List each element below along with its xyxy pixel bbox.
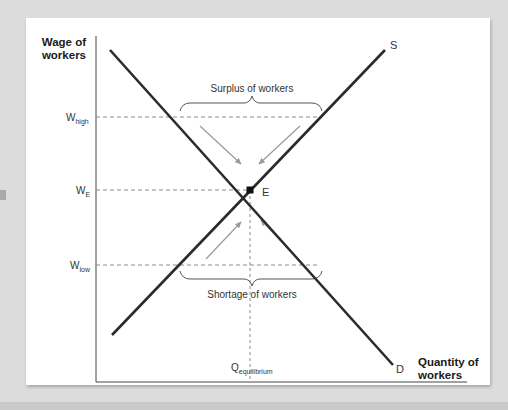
y-axis-title-line2: workers bbox=[41, 49, 86, 61]
equilibrium-label: E bbox=[262, 186, 269, 198]
tick-w-low: Wlow bbox=[70, 260, 91, 273]
shortage-label: Shortage of workers bbox=[207, 289, 297, 300]
equilibrium-point bbox=[247, 187, 254, 194]
demand-label: D bbox=[396, 363, 404, 375]
surplus-label: Surplus of workers bbox=[211, 83, 294, 94]
labor-market-chart: Wage of workers Quantity of workers Whig… bbox=[0, 0, 508, 410]
surplus-brace bbox=[180, 96, 322, 111]
tick-w-e: WE bbox=[76, 185, 90, 198]
tick-w-high: Whigh bbox=[66, 112, 89, 126]
arrow-shortage-left bbox=[206, 222, 241, 259]
x-axis-title-line2: workers bbox=[417, 369, 462, 381]
y-axis-title: Wage of bbox=[42, 36, 86, 48]
shortage-brace bbox=[180, 271, 322, 286]
tick-q-equilibrium: Qequilibrium bbox=[231, 362, 273, 376]
x-axis-title: Quantity of bbox=[418, 356, 479, 368]
supply-label: S bbox=[390, 39, 397, 51]
